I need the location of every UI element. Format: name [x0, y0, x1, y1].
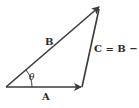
vector-b-label: B	[45, 36, 53, 47]
vector-a-label: A	[41, 91, 50, 102]
theta-label: θ	[29, 72, 35, 82]
vector-c-label: C = B − A	[94, 43, 139, 54]
vector-diagram: A B C = B − A θ	[0, 0, 139, 108]
